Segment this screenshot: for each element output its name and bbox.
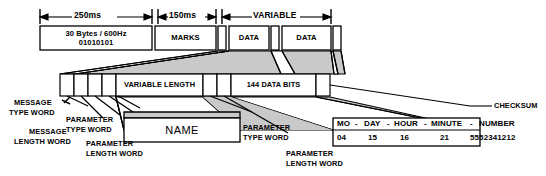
- callout-parameter-type-word-1-line1: PARAMETER: [66, 116, 113, 124]
- dimension-label-variable: VARIABLE: [253, 11, 297, 21]
- dimension-label-250ms: 250ms: [74, 11, 101, 21]
- name-label: NAME: [124, 124, 240, 136]
- data-label-2: DATA: [282, 34, 331, 43]
- table-sep-2: -: [387, 120, 390, 129]
- checksum-cell: [316, 74, 330, 96]
- variable-length-label: VARIABLE LENGTH: [116, 81, 203, 89]
- gap-cell-1: [218, 26, 226, 50]
- word-cell-6: [217, 74, 231, 96]
- table-header-day: DAY: [364, 120, 380, 129]
- gap-cell-3: [333, 26, 341, 50]
- table-header-number: NUMBER: [479, 120, 515, 129]
- marks-label: MARKS: [155, 34, 216, 43]
- callout-parameter-length-word-1-line2: LENGTH WORD: [86, 150, 143, 158]
- table-sep-1: -: [355, 120, 358, 129]
- callout-parameter-length-word-2-line1: PARAMETER: [286, 150, 333, 158]
- data-label-1: DATA: [229, 34, 269, 43]
- callout-checksum: CHECKSUM: [494, 102, 538, 110]
- table-value-month: 04: [337, 134, 346, 143]
- word-cell-3: [88, 74, 102, 96]
- table-sep-3: -: [424, 120, 427, 129]
- table-value-day: 15: [368, 134, 377, 143]
- callout-message-length-word-line2: LENGTH WORD: [14, 138, 71, 146]
- callout-parameter-type-word-2-line1: PARAMETER: [243, 124, 290, 132]
- callout-message-type-word-line2: TYPE WORD: [9, 109, 55, 117]
- table-sep-4: -: [470, 120, 473, 129]
- callout-parameter-type-word-1-line2: TYPE WORD: [66, 126, 112, 134]
- callout-message-length-word-line1: MESSAGE: [29, 128, 67, 136]
- table-value-number: 5552341212: [470, 134, 516, 143]
- dimension-label-150ms: 150ms: [169, 11, 196, 21]
- callout-parameter-type-word-2-line2: TYPE WORD: [243, 134, 289, 142]
- preamble-line2: 01010101: [40, 39, 152, 48]
- callout-parameter-length-word-1-line1: PARAMETER: [86, 140, 133, 148]
- callout-message-type-word-line1: MESSAGE: [14, 99, 52, 107]
- word-cell-1: [60, 74, 74, 96]
- data-bits-label: 144 DATA BITS: [231, 81, 316, 89]
- diagram-canvas: 250ms 150ms VARIABLE 30 Bytes / 600Hz 01…: [0, 0, 546, 176]
- table-value-minute: 21: [440, 134, 449, 143]
- callout-parameter-length-word-2-line2: LENGTH WORD: [286, 160, 343, 168]
- word-cell-5: [203, 74, 217, 96]
- table-header-hour: HOUR: [394, 120, 418, 129]
- expansion-wedge-upper: [60, 51, 345, 74]
- gap-cell-2: [271, 26, 279, 50]
- table-value-hour: 16: [400, 134, 409, 143]
- table-header-minute: MINUTE: [431, 120, 462, 129]
- name-box-shade: [124, 112, 240, 118]
- word-cell-4: [102, 74, 116, 96]
- word-cell-2: [74, 74, 88, 96]
- table-header-mo: MO: [337, 120, 350, 129]
